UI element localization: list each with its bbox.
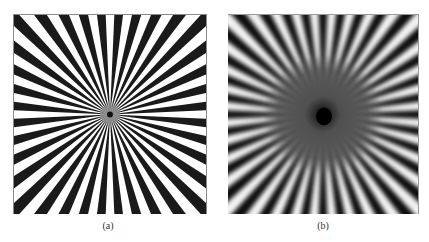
- siemens-star-blurred-graphic: [228, 15, 418, 214]
- caption-a: (a): [88, 220, 128, 231]
- caption-b: (b): [303, 220, 343, 231]
- siemens-star-sharp-image: [13, 14, 207, 214]
- siemens-star-blurred-image: [228, 14, 419, 214]
- siemens-star-sharp-graphic: [14, 15, 206, 214]
